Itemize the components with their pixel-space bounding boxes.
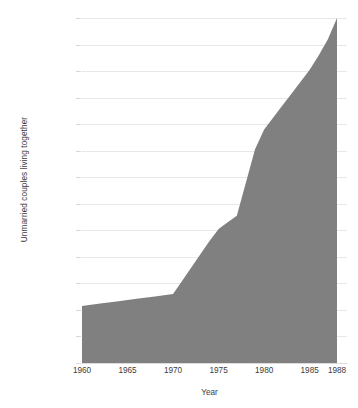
x-tick-label: 1980 xyxy=(255,366,273,375)
y-tick-mark xyxy=(76,310,81,311)
plot-area xyxy=(82,18,337,363)
y-tick-mark xyxy=(76,230,81,231)
area-chart: Unmarried couples living together 0200,0… xyxy=(0,0,358,408)
y-axis-title: Unmarried couples living together xyxy=(20,85,29,275)
gridline xyxy=(82,363,347,364)
y-tick-mark xyxy=(76,363,81,364)
y-tick-mark xyxy=(76,18,81,19)
area-series-svg xyxy=(82,18,337,363)
y-tick-mark xyxy=(76,257,81,258)
y-tick-mark xyxy=(76,151,81,152)
x-axis-title: Year xyxy=(82,388,337,397)
area-series-path xyxy=(82,18,337,363)
x-tick-label: 1965 xyxy=(118,366,136,375)
x-tick-label: 1985 xyxy=(301,366,319,375)
y-tick-mark xyxy=(76,177,81,178)
y-tick-mark xyxy=(76,124,81,125)
y-tick-mark xyxy=(76,45,81,46)
y-tick-mark xyxy=(76,336,81,337)
x-tick-label: 1988 xyxy=(328,366,346,375)
x-tick-label: 1970 xyxy=(164,366,182,375)
y-tick-mark xyxy=(76,71,81,72)
y-tick-mark xyxy=(76,98,81,99)
x-tick-label: 1975 xyxy=(209,366,227,375)
y-tick-mark xyxy=(76,283,81,284)
y-tick-mark xyxy=(76,204,81,205)
x-tick-label: 1960 xyxy=(73,366,91,375)
